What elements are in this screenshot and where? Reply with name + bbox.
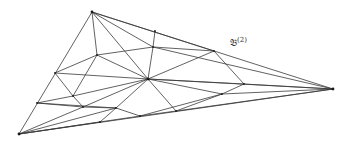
mesh-vertex — [243, 83, 245, 85]
mesh-vertex — [147, 78, 150, 81]
mesh-vertex — [115, 107, 117, 109]
label-superscript: (2) — [237, 36, 247, 44]
mesh-vertex — [154, 30, 156, 32]
mesh-vertex — [152, 46, 154, 48]
mesh-edge — [97, 47, 153, 55]
mesh-edge — [92, 12, 97, 55]
label-base: 𝔅 — [230, 37, 237, 48]
mesh-edge — [83, 79, 148, 107]
mesh-vertex — [18, 133, 21, 136]
mesh-edge — [37, 96, 73, 103]
mesh-edge — [148, 47, 153, 79]
mesh-edge — [55, 73, 73, 96]
mesh-vertex — [54, 72, 56, 74]
mesh-edge — [92, 12, 148, 79]
mesh-nodes — [18, 11, 335, 136]
mesh-edge — [97, 55, 148, 79]
mesh-edge — [19, 116, 140, 134]
region-label: 𝔅(2) — [230, 36, 247, 49]
mesh-vertex — [99, 121, 101, 123]
mesh-edges — [19, 12, 333, 134]
mesh-edge — [55, 73, 148, 79]
mesh-edge — [92, 12, 153, 47]
mesh-edge — [140, 111, 176, 116]
mesh-edge — [140, 94, 222, 116]
mesh-edge — [153, 31, 155, 47]
mesh-edge — [222, 84, 244, 94]
mesh-edge — [83, 107, 116, 108]
mesh-edge — [19, 107, 83, 134]
mesh-vertex — [91, 11, 94, 14]
mesh-edge — [73, 79, 148, 96]
mesh-vertex — [36, 102, 38, 104]
mesh-vertex — [332, 88, 335, 91]
mesh-edge — [148, 51, 214, 79]
mesh-vertex — [72, 95, 74, 97]
mesh-vertex — [213, 50, 215, 52]
mesh-vertex — [221, 93, 223, 95]
triangulation-diagram — [0, 0, 352, 142]
mesh-edge — [116, 79, 148, 108]
mesh-vertex — [96, 54, 98, 56]
mesh-vertex — [139, 115, 141, 117]
mesh-vertex — [82, 106, 84, 108]
mesh-vertex — [175, 110, 177, 112]
mesh-edge — [116, 108, 140, 116]
